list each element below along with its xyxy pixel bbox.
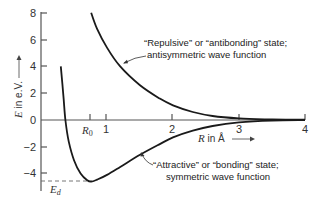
x-tick-1: 1 (103, 123, 109, 135)
y-tick-8: 8 (30, 7, 36, 19)
repulsive-curve (91, 13, 305, 120)
y-tick-4: 4 (30, 60, 36, 72)
ed-label: Ed (49, 183, 62, 197)
x-tick-4: 4 (302, 123, 308, 135)
svg-text:“Repulsive” or “antibonding” s: “Repulsive” or “antibonding” state; (144, 37, 287, 48)
y-axis-label: E in e.V. (12, 55, 24, 119)
svg-text:“Attractive” or “bonding” stat: “Attractive” or “bonding” state; (153, 159, 279, 170)
y-tick-minus-2: −2 (23, 141, 36, 153)
y-tick-2: 2 (30, 87, 36, 99)
svg-text:E in e.V.: E in e.V. (12, 81, 24, 119)
x-tick-2: 2 (169, 123, 175, 135)
x-tick-3: 3 (236, 123, 242, 135)
y-tick-6: 6 (30, 34, 36, 46)
svg-text:R in Å: R in Å (197, 132, 225, 144)
potential-energy-chart: 8 6 4 2 0 −2 −4 E in e.V. R0 1 2 3 4 R i… (0, 0, 327, 201)
y-tick-0: 0 (30, 114, 36, 126)
y-ticks (41, 13, 47, 173)
y-tick-minus-4: −4 (23, 167, 36, 179)
repulsive-annotation: “Repulsive” or “antibonding” state; anti… (123, 37, 287, 64)
r0-label: R0 (81, 124, 93, 138)
x-axis-label: R in Å (197, 132, 255, 144)
y-tick-labels: 8 6 4 2 0 −2 −4 (23, 7, 36, 179)
attractive-annotation: “Attractive” or “bonding” state; symmetr… (141, 152, 279, 182)
svg-text:antisymmetric wave function: antisymmetric wave function (147, 49, 266, 60)
svg-text:symmetric wave function: symmetric wave function (166, 171, 270, 182)
